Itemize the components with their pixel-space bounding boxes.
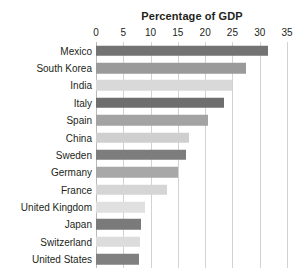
category-label-sweden: Sweden bbox=[56, 149, 92, 160]
bar-row: Mexico bbox=[0, 42, 298, 59]
category-label-switzerland: Switzerland bbox=[40, 236, 92, 247]
bar-chart: Percentage of GDP 05101520253035 MexicoS… bbox=[0, 0, 298, 279]
category-label-south-korea: South Korea bbox=[36, 63, 92, 74]
x-tick-label-25: 25 bbox=[227, 27, 238, 38]
bar-row: France bbox=[0, 181, 298, 198]
category-label-united-states: United States bbox=[32, 254, 92, 265]
x-tick-label-30: 30 bbox=[254, 27, 265, 38]
bar-row: South Korea bbox=[0, 59, 298, 76]
bar-switzerland bbox=[96, 237, 140, 248]
bar-sweden bbox=[96, 150, 186, 161]
category-label-china: China bbox=[66, 132, 92, 143]
category-label-india: India bbox=[70, 80, 92, 91]
x-tick-label-20: 20 bbox=[200, 27, 211, 38]
bar-france bbox=[96, 184, 167, 195]
category-label-united-kingdom: United Kingdom bbox=[21, 202, 92, 213]
bar-row: Germany bbox=[0, 164, 298, 181]
bar-mexico bbox=[96, 45, 268, 56]
bar-united-kingdom bbox=[96, 202, 145, 213]
bar-germany bbox=[96, 167, 178, 178]
x-tick-label-15: 15 bbox=[172, 27, 183, 38]
bar-row: Switzerland bbox=[0, 233, 298, 250]
bar-row: China bbox=[0, 129, 298, 146]
category-label-mexico: Mexico bbox=[60, 45, 92, 56]
bar-row: United States bbox=[0, 251, 298, 268]
bar-row: Japan bbox=[0, 216, 298, 233]
bar-row: India bbox=[0, 77, 298, 94]
category-label-italy: Italy bbox=[74, 97, 92, 108]
x-tick-label-35: 35 bbox=[281, 27, 292, 38]
bar-south-korea bbox=[96, 63, 246, 74]
bar-rows: MexicoSouth KoreaIndiaItalySpainChinaSwe… bbox=[0, 42, 298, 268]
x-tick-label-5: 5 bbox=[121, 27, 127, 38]
bar-italy bbox=[96, 98, 224, 109]
category-label-spain: Spain bbox=[66, 115, 92, 126]
category-label-france: France bbox=[61, 184, 92, 195]
bar-united-states bbox=[96, 254, 139, 265]
bar-row: Italy bbox=[0, 94, 298, 111]
bar-row: Sweden bbox=[0, 146, 298, 163]
category-label-germany: Germany bbox=[51, 167, 92, 178]
x-tick-label-10: 10 bbox=[145, 27, 156, 38]
category-label-japan: Japan bbox=[65, 219, 92, 230]
bar-india bbox=[96, 80, 232, 91]
bar-japan bbox=[96, 219, 141, 230]
bar-china bbox=[96, 132, 189, 143]
bar-row: United Kingdom bbox=[0, 198, 298, 215]
x-tick-label-0: 0 bbox=[93, 27, 99, 38]
chart-title: Percentage of GDP bbox=[96, 10, 288, 22]
bar-row: Spain bbox=[0, 112, 298, 129]
bar-spain bbox=[96, 115, 208, 126]
x-axis-tick-labels: 05101520253035 bbox=[0, 27, 298, 41]
